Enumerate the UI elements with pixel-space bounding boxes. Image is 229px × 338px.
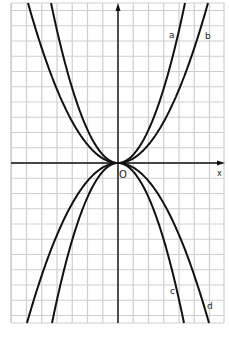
origin-label: O bbox=[119, 169, 127, 180]
label-d: d bbox=[207, 301, 213, 311]
parabola-diagram: a b c d x O bbox=[0, 0, 229, 338]
y-axis-arrow-icon bbox=[116, 3, 121, 11]
label-a: a bbox=[169, 30, 175, 40]
label-b: b bbox=[205, 31, 211, 41]
label-c: c bbox=[170, 286, 175, 296]
x-axis-label: x bbox=[217, 169, 222, 178]
